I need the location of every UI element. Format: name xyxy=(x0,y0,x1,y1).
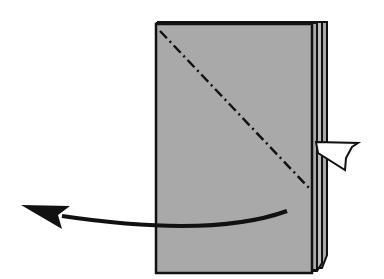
diagram-canvas xyxy=(0,0,384,279)
origami-diagram: Valley/mountain fold along diagonal dash… xyxy=(0,0,384,279)
paper-sheet xyxy=(156,24,312,273)
